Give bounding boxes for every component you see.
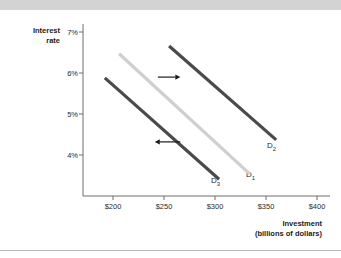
plot-area bbox=[0, 0, 341, 258]
demand-curves bbox=[105, 46, 276, 179]
rightward-shift-arrow bbox=[158, 75, 180, 80]
x-axis-ticks bbox=[113, 196, 317, 200]
demand-curve-d2 bbox=[169, 46, 276, 140]
y-axis-ticks bbox=[79, 32, 83, 155]
axis-lines bbox=[83, 24, 330, 196]
investment-demand-figure: Interest rate Investment (billions of do… bbox=[0, 0, 341, 258]
demand-curve-d1 bbox=[119, 54, 250, 174]
